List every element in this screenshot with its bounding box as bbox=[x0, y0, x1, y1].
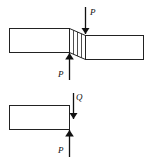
force-label-bottom-p: P bbox=[57, 69, 64, 79]
right-block bbox=[86, 36, 144, 60]
force-label-top-p: P bbox=[89, 7, 96, 17]
top-figure: P P bbox=[10, 7, 144, 80]
bottom-figure: Q P bbox=[10, 92, 84, 157]
force-label-q: Q bbox=[76, 92, 83, 102]
force-label-bottom-figure-p: P bbox=[57, 145, 64, 155]
shear-zone bbox=[70, 29, 86, 60]
free-body-block bbox=[10, 106, 70, 130]
shear-diagram: P P Q P bbox=[0, 0, 149, 167]
left-block bbox=[10, 29, 70, 53]
